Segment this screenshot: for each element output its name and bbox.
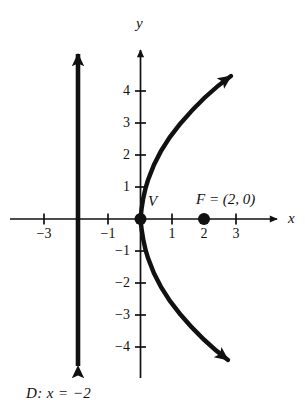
y-tick-label-neg3: −3 <box>104 308 130 322</box>
y-tick-label-3: 3 <box>114 116 130 130</box>
y-tick-label-4: 4 <box>114 84 130 98</box>
vertex-label: V <box>148 194 157 209</box>
directrix-label: D: x = −2 <box>26 386 91 401</box>
parabola-lower-branch <box>141 219 229 360</box>
y-tick-label-1: 1 <box>114 180 130 194</box>
vertex-point <box>135 213 147 225</box>
y-tick-label-neg1: −1 <box>104 244 130 258</box>
x-tick-label-1: 1 <box>163 227 181 241</box>
x-axis-label: x <box>288 211 295 226</box>
x-tick-label-2: 2 <box>195 227 213 241</box>
y-tick-label-neg4: −4 <box>104 340 130 354</box>
y-tick-label-neg2: −2 <box>104 276 130 290</box>
x-tick-label-neg3: −3 <box>30 227 58 241</box>
x-tick-label-neg1: −1 <box>94 227 122 241</box>
y-axis-label: y <box>136 16 143 31</box>
focus-label: F = (2, 0) <box>196 192 255 207</box>
x-tick-label-3: 3 <box>227 227 245 241</box>
focus-point <box>198 213 210 225</box>
y-tick-label-2: 2 <box>114 148 130 162</box>
parabola-figure: y x −3 −1 1 2 3 4 3 2 1 −1 −2 −3 −4 V F … <box>0 0 305 409</box>
